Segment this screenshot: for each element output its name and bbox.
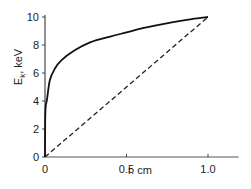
dashed-line <box>45 17 208 157</box>
y-tick-label: 6 <box>33 67 39 79</box>
y-tick-label: 4 <box>33 95 39 107</box>
y-tick-label: 2 <box>33 123 39 135</box>
y-tick-label: 8 <box>33 39 39 51</box>
y-ticks: 0246810 <box>27 11 45 163</box>
y-axis-title-rest: , keV <box>12 48 24 74</box>
x-axis-title: r. cm <box>128 164 152 176</box>
x-tick-label: 0 <box>42 163 48 175</box>
plot-area: 00.51.0 0246810 r. cm Ek, keV <box>12 11 239 176</box>
y-tick-label: 0 <box>33 151 39 163</box>
chart: 00.51.0 0246810 r. cm Ek, keV <box>0 0 251 189</box>
y-axis-title-main: E <box>12 78 24 85</box>
series-layer <box>45 17 208 157</box>
y-axis-title: Ek, keV <box>12 48 27 85</box>
x-tick-label: 1.0 <box>200 163 215 175</box>
y-tick-label: 10 <box>27 11 39 23</box>
